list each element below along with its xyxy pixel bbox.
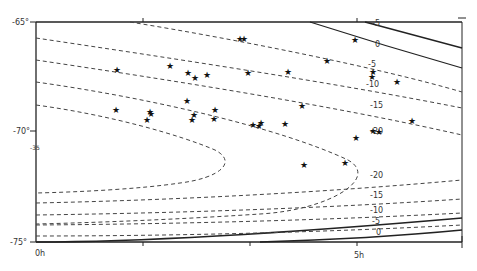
svg-text:★: ★ (188, 115, 196, 125)
svg-text:★: ★ (341, 158, 349, 168)
contour-label: -15 (370, 101, 383, 110)
svg-text:★: ★ (375, 127, 383, 137)
contour-label: -20 (370, 171, 383, 180)
svg-text:★: ★ (352, 133, 360, 143)
svg-text:★: ★ (257, 118, 265, 128)
contour-label: -10 (370, 206, 383, 215)
svg-text:★: ★ (166, 61, 174, 71)
solid-contours (36, 22, 462, 242)
y-tick-label-top: -65° (12, 18, 29, 27)
svg-text:★: ★ (393, 77, 401, 87)
svg-text:★: ★ (203, 70, 211, 80)
svg-text:★: ★ (298, 101, 306, 111)
svg-text:★: ★ (244, 68, 252, 78)
svg-text:★: ★ (300, 160, 308, 170)
svg-text:★: ★ (143, 115, 151, 125)
contour-label: 0 (375, 40, 380, 49)
contour-label: 0 (376, 228, 381, 237)
svg-text:★: ★ (368, 72, 376, 82)
svg-text:★: ★ (408, 116, 416, 126)
svg-text:★: ★ (191, 73, 199, 83)
contour-chart: -65° -70° -35 -75° 0h 5h -5 0 -5 -10 -15… (0, 0, 477, 271)
svg-text:★: ★ (112, 105, 120, 115)
y-tick-label-mid: -70° (13, 127, 30, 136)
y-side-label: -35 (30, 144, 40, 151)
contour-label: -5 (372, 19, 380, 28)
y-tick-label-bottom: -75° (10, 238, 27, 247)
svg-text:★: ★ (240, 34, 248, 44)
svg-text:★: ★ (351, 35, 359, 45)
svg-text:★: ★ (281, 119, 289, 129)
svg-text:★: ★ (113, 65, 121, 75)
svg-text:★: ★ (210, 114, 218, 124)
contour-label: -15 (370, 191, 383, 200)
contour-label: -5 (372, 217, 380, 226)
svg-text:★: ★ (323, 56, 331, 66)
plot-frame (30, 18, 466, 248)
x-tick-label-left: 0h (35, 249, 45, 258)
x-tick-label-right: 5h (354, 251, 364, 260)
svg-text:★: ★ (284, 67, 292, 77)
svg-text:★: ★ (183, 96, 191, 106)
